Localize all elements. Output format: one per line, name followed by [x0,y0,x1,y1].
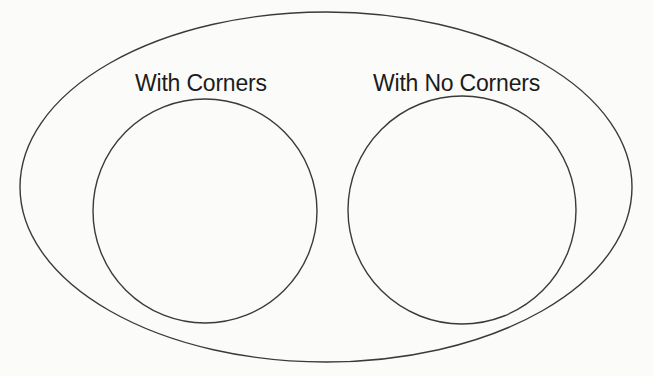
venn-diagram: With Corners With No Corners [0,0,653,376]
set-label-with-no-corners: With No Corners [373,72,540,95]
set-with-corners-circle [93,99,317,323]
set-with-no-corners-circle [348,96,576,324]
outer-set-ellipse [20,12,632,362]
set-label-with-corners: With Corners [135,72,267,95]
diagram-shapes [0,0,653,376]
